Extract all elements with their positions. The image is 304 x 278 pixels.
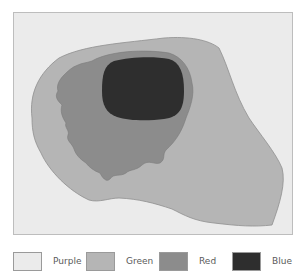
legend: Purple Green Red Blue xyxy=(13,251,303,273)
legend-label: Red xyxy=(199,256,216,266)
red-swatch xyxy=(159,252,188,271)
legend-label: Green xyxy=(126,256,153,266)
green-swatch xyxy=(86,252,115,271)
blue-swatch xyxy=(232,252,261,271)
region-diagram xyxy=(14,13,294,236)
legend-item-red: Red xyxy=(159,251,216,271)
blue-region xyxy=(102,57,184,120)
legend-item-green: Green xyxy=(86,251,153,271)
legend-label: Blue xyxy=(272,256,292,266)
legend-item-blue: Blue xyxy=(232,251,292,271)
legend-label: Purple xyxy=(53,256,81,266)
diagram-frame xyxy=(13,12,293,235)
legend-item-purple: Purple xyxy=(13,251,81,271)
purple-swatch xyxy=(13,252,42,271)
